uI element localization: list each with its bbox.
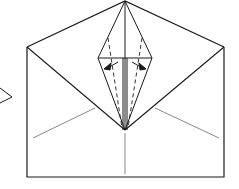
fold-arrow-left-icon (104, 62, 118, 70)
origami-diagram (0, 0, 239, 189)
fold-arrow-right-icon (132, 62, 146, 70)
crease-lines (33, 108, 219, 174)
step-arrow-icon (0, 88, 12, 103)
kite-diamond (98, 1, 152, 130)
